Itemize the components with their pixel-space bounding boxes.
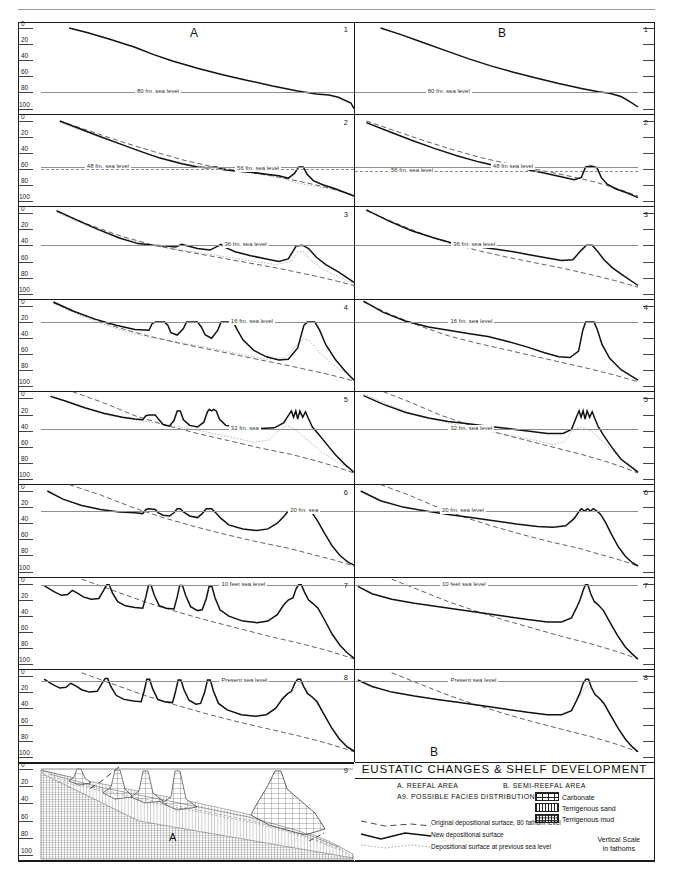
axis-label: 0 [21, 762, 25, 768]
sea-level-label: 16 fm. sea level [448, 318, 494, 325]
profile-curves [355, 207, 654, 300]
panel-number: 7 [344, 581, 348, 590]
axis-tick [19, 803, 33, 804]
previous-sea-level-surface [60, 122, 354, 195]
legend-key-previous-surface: Depositional surface at previous sea lev… [431, 843, 551, 850]
profile-curves [355, 22, 654, 115]
legend-row-a9: A9. POSSIBLE FACIES DISTRIBUTION [397, 793, 535, 800]
profile-curves [19, 485, 354, 578]
axis-label: 40 [21, 796, 28, 802]
profile-curves [355, 115, 654, 208]
sea-level-label: 80 fm. sea level [135, 88, 181, 95]
legend-key-new-surface: New depositional surface [431, 831, 504, 838]
new-depositional-surface [44, 584, 354, 657]
header-ghost-text [440, 0, 670, 8]
panel-number: 1 [344, 25, 348, 34]
new-depositional-surface [60, 121, 354, 196]
sea-level-line [355, 585, 638, 586]
panel-number: 2 [344, 118, 348, 127]
panel-a-1: 02040608010080 fm. sea level1 [19, 22, 354, 115]
original-depositional-surface [72, 392, 354, 473]
terrigenous-mud-label: Terrigenous mud [562, 816, 614, 823]
original-depositional-surface [392, 579, 638, 659]
original-depositional-surface [366, 211, 638, 288]
new-depositional-surface [44, 679, 354, 752]
original-depositional-surface [54, 303, 355, 381]
original-depositional-surface [366, 121, 638, 196]
original-depositional-surface [60, 121, 354, 195]
sea-level-label: 16 fm. sea level [229, 318, 275, 325]
sea-level-line [41, 585, 354, 586]
profile-curves [19, 670, 354, 763]
panel-number: 8 [644, 673, 648, 682]
sea-level-label: 32 fm. sea [229, 425, 261, 432]
sea-level-label: 10 feet sea level [440, 581, 488, 588]
panel-b-2: 56 fm. sea level48 fm sea level2 [355, 115, 654, 208]
new-depositional-surface [358, 584, 638, 658]
sea-level-label: Present sea level [219, 677, 269, 684]
panel-b-6: 20 fm. sea level6 [355, 485, 654, 578]
panel-number: 6 [344, 488, 348, 497]
original-depositional-surface [381, 485, 639, 566]
sea-level-line [41, 245, 354, 246]
panel-b-7: 10 feet sea level7 [355, 578, 654, 671]
sea-level-line [41, 92, 354, 93]
sea-level-label: 56 fm. sea level [389, 167, 435, 174]
axis-label: 80 [21, 831, 28, 837]
panel-number: 2 [644, 118, 648, 127]
carbonate-label: Carbonate [562, 794, 595, 801]
new-depositional-surface [381, 28, 639, 107]
legend-facies-terrigenous-sand: Terrigenous sand [535, 803, 616, 812]
new-depositional-surface [57, 211, 354, 283]
panel-number: 5 [344, 395, 348, 404]
panel-a-2: 02040608010048 fm. sea level56 fm. sea l… [19, 115, 354, 208]
sea-level-line [355, 511, 638, 512]
sea-level-line [355, 92, 638, 93]
new-depositional-surface [69, 28, 354, 109]
terrigenous-sand-label: Terrigenous sand [562, 805, 616, 812]
header-rule [18, 9, 655, 10]
axis-label: 100 [21, 848, 32, 854]
sea-level-label: 80 fm. sea level [426, 88, 472, 95]
legend-facies-carbonate: Carbonate [535, 792, 595, 801]
vertical-scale-line1: Vertical Scale [598, 835, 640, 844]
sea-level-line [41, 429, 354, 430]
panel-a-3: 02040608010036 fm. sea level3 [19, 207, 354, 300]
original-depositional-surface [392, 673, 638, 752]
sea-level-label: 36 fm. sea level [451, 241, 497, 248]
profile-curves [355, 578, 654, 671]
panel-b-1: 80 fm. sea level1 [355, 22, 654, 115]
legend-title-rule [355, 778, 654, 779]
panel-a-7: 02040608010010 feet sea level7 [19, 578, 354, 671]
sea-level-label: 36 fm. sea level [223, 241, 269, 248]
sea-level-line [355, 322, 638, 323]
panel-number: 7 [644, 581, 648, 590]
panel-a-4: 02040608010016 fm. sea level4 [19, 300, 354, 393]
axis-tick [19, 769, 33, 770]
previous-sea-level-surface [57, 212, 354, 284]
panel-number: 6 [644, 488, 648, 497]
new-depositional-surface [366, 122, 638, 197]
panel-a-6: 02040608010020 fm. sea6 [19, 485, 354, 578]
panel-number: 4 [344, 303, 348, 312]
profile-curves [19, 578, 354, 671]
previous-sea-level-surface [54, 303, 355, 378]
legend-row-a: A. REEFAL AREA [397, 782, 458, 789]
new-depositional-surface [361, 491, 638, 566]
original-depositional-surface [82, 673, 354, 752]
sea-level-line [41, 681, 354, 682]
terrigenous-sand-pattern-swatch [535, 803, 559, 812]
sea-level-label: 32 fm. sea level [448, 425, 494, 432]
panel-b-5: 32 fm. sea level5 [355, 392, 654, 485]
legend-box: EUSTATIC CHANGES & SHELF DEVELOPMENT A. … [355, 763, 654, 861]
sea-level-label: 20 fm. sea level [440, 507, 486, 514]
panel-9-profile [19, 763, 354, 861]
axis-label: 60 [21, 814, 28, 820]
profile-curves [19, 300, 354, 393]
panel-number: 9 [344, 766, 348, 775]
legend-row-b: B. SEMI-REEFAL AREA [503, 782, 586, 789]
original-depositional-surface [383, 392, 638, 473]
legend-bottom-rule [355, 860, 654, 861]
sea-level-label: 20 fm. sea [288, 507, 320, 514]
axis-label: 20 [21, 779, 28, 785]
